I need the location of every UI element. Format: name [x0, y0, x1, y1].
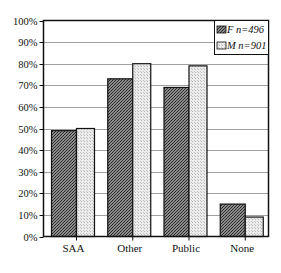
y-tick-label: 40%	[18, 145, 38, 156]
y-tick-label: 100%	[13, 16, 38, 27]
legend-swatch-m	[217, 42, 226, 49]
x-tick-label: None	[230, 242, 254, 254]
x-tick-label: Other	[117, 242, 142, 254]
legend: F n=496 M n=901	[215, 21, 269, 55]
legend-swatch-f	[217, 26, 226, 33]
y-tick-label: 30%	[18, 167, 38, 178]
x-axis: SAAOtherPublicNone	[62, 237, 254, 254]
bar-other-m	[133, 64, 151, 237]
bar-other-f	[108, 79, 133, 237]
bar-saa-m	[77, 129, 95, 237]
x-tick-label: Public	[172, 242, 200, 254]
y-tick-label: 90%	[18, 37, 38, 48]
bar-public-f	[164, 87, 189, 236]
y-tick-label: 60%	[18, 102, 38, 113]
legend-label-m: M n=901	[226, 40, 266, 51]
bar-none-f	[220, 204, 245, 236]
y-tick-label: 20%	[18, 188, 38, 199]
bar-public-m	[189, 66, 207, 237]
bar-saa-f	[52, 131, 77, 237]
y-tick-label: 10%	[18, 210, 38, 221]
y-tick-label: 0%	[24, 232, 38, 243]
y-tick-label: 50%	[18, 124, 38, 135]
y-axis: 0%10%20%30%40%50%60%70%80%90%100%	[13, 16, 44, 243]
y-tick-label: 80%	[18, 59, 38, 70]
x-tick-label: SAA	[62, 242, 84, 254]
legend-label-f: F n=496	[226, 24, 265, 35]
bar-chart: 0%10%20%30%40%50%60%70%80%90%100% SAAOth…	[0, 0, 281, 273]
bar-none-m	[245, 217, 263, 236]
y-tick-label: 70%	[18, 80, 38, 91]
